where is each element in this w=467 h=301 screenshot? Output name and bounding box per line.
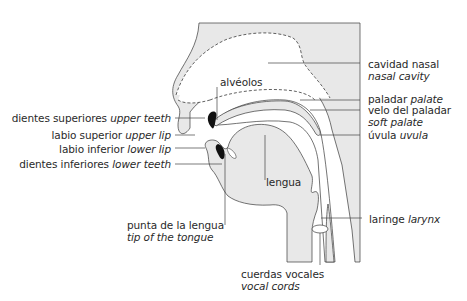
label-alveolos: alvéolos xyxy=(220,76,262,88)
label-tongue: lengua xyxy=(266,176,301,188)
label-larynx: laringe larynx xyxy=(369,213,440,225)
label-lower-lip: labio inferior lower lip xyxy=(59,143,171,155)
label-uvula: úvula uvula xyxy=(368,129,428,141)
vocal-cords-shape xyxy=(312,225,328,233)
label-upper-lip: labio superior upper lip xyxy=(52,129,171,141)
label-upper-teeth: dientes superiores upper teeth xyxy=(12,112,171,124)
label-nasal-cavity: cavidad nasalnasal cavity xyxy=(368,58,439,82)
upper-teeth-shape xyxy=(208,112,217,129)
label-tip-of-tongue: punta de la lenguatip of the tongue xyxy=(127,219,224,243)
label-lower-teeth: dientes inferiores lower teeth xyxy=(19,158,171,170)
label-vocal-cords: cuerdas vocalesvocal cords xyxy=(241,268,324,292)
label-soft-palate: velo del paladarsoft palate xyxy=(368,104,451,128)
